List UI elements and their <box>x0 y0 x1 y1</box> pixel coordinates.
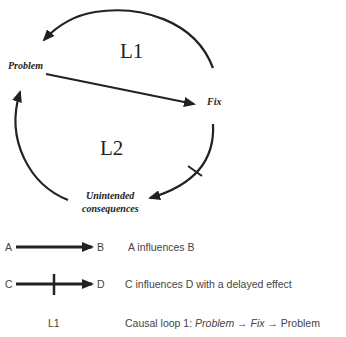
legend-c: C <box>5 278 13 290</box>
legend-desc-influence: A influences B <box>128 241 195 253</box>
legend-b: B <box>97 241 104 253</box>
legend-desc-delayed: C influences D with a delayed effect <box>125 278 292 290</box>
loop-label-l2: L2 <box>100 136 123 160</box>
legend-a: A <box>5 241 12 253</box>
arc-fix-to-unintended <box>150 124 213 198</box>
loop-label-l1: L1 <box>120 39 143 63</box>
node-fix: Fix <box>206 96 221 107</box>
node-problem: Problem <box>8 60 43 71</box>
legend-d: D <box>97 278 105 290</box>
node-unintended-line1: Unintended <box>86 190 135 201</box>
legend-l1: L1 <box>48 317 60 329</box>
node-unintended-line2: consequences <box>82 203 139 214</box>
arrow-problem-to-fix <box>46 74 194 104</box>
arc-unintended-to-problem <box>16 92 68 200</box>
causal-loop-diagram: Problem Fix Unintended consequences L1 L… <box>0 0 346 337</box>
legend-desc-loop: Causal loop 1: Problem → Fix → Problem <box>125 317 320 329</box>
